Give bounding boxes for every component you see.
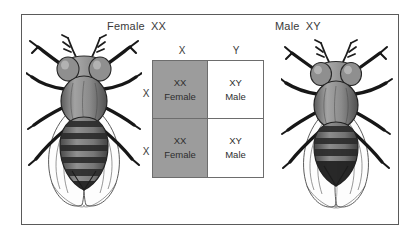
punnett-cell-genotype: XY <box>229 134 242 148</box>
punnett-cell-genotype: XY <box>229 76 242 90</box>
fruit-fly-icon <box>26 33 142 216</box>
punnett-cell: XY Male <box>208 61 263 119</box>
punnett-cell: XX Female <box>153 61 208 119</box>
male-parent-sex: Male <box>275 20 300 32</box>
fruit-fly-icon <box>281 38 393 216</box>
punnett-column-header-y: Y <box>226 45 246 56</box>
female-parent-sex: Female <box>107 20 145 32</box>
punnett-cell-genotype: XX <box>174 76 187 90</box>
genetics-punnett-figure: FemaleXX MaleXY X Y X X XX Female XY Mal… <box>0 0 419 240</box>
male-parent-genotype: XY <box>306 20 321 32</box>
punnett-square: XX Female XY Male XX Female XY Male <box>152 60 264 178</box>
female-parent-genotype: XX <box>151 20 166 32</box>
male-parent-label: MaleXY <box>275 20 321 32</box>
female-parent-label: FemaleXX <box>107 20 166 32</box>
punnett-column-header-x: X <box>172 45 192 56</box>
punnett-cell-phenotype: Male <box>225 148 246 162</box>
punnett-cell-phenotype: Male <box>225 90 246 104</box>
punnett-cell: XX Female <box>153 119 208 177</box>
punnett-cell: XY Male <box>208 119 263 177</box>
punnett-cell-phenotype: Female <box>164 90 196 104</box>
punnett-cell-phenotype: Female <box>164 148 196 162</box>
punnett-cell-genotype: XX <box>174 134 187 148</box>
